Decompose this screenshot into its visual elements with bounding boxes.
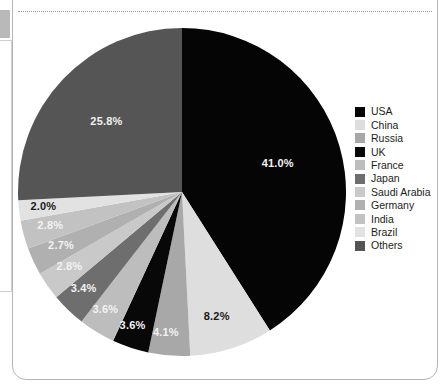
left-gray-block [0, 10, 10, 38]
legend-item[interactable]: Brazil [355, 226, 441, 239]
legend-item[interactable]: France [355, 159, 441, 172]
legend-item-label: USA [371, 106, 393, 117]
pie-slices-group [18, 28, 346, 356]
legend-item[interactable]: Saudi Arabia [355, 185, 441, 198]
legend-swatch-icon [355, 214, 365, 224]
legend-item-label: China [371, 120, 398, 131]
legend-item-label: France [371, 160, 404, 171]
legend-item[interactable]: India [355, 212, 441, 225]
legend-item-label: UK [371, 147, 386, 158]
legend-item[interactable]: China [355, 118, 441, 131]
legend-item[interactable]: UK [355, 145, 441, 158]
pie-chart-svg[interactable] [18, 18, 348, 368]
legend-swatch-icon [355, 107, 365, 117]
legend-item[interactable]: USA [355, 105, 441, 118]
legend-swatch-icon [355, 160, 365, 170]
legend-swatch-icon [355, 227, 365, 237]
legend-item-label: Brazil [371, 227, 397, 238]
legend-swatch-icon [355, 147, 365, 157]
dotted-separator [18, 11, 432, 12]
legend-swatch-icon [355, 241, 365, 251]
legend-swatch-icon [355, 133, 365, 143]
legend-item-label: Japan [371, 173, 400, 184]
legend-item[interactable]: Germany [355, 199, 441, 212]
legend-item-label: Others [371, 240, 403, 251]
legend-item[interactable]: Japan [355, 172, 441, 185]
legend-swatch-icon [355, 174, 365, 184]
legend-item-label: India [371, 214, 394, 225]
legend-swatch-icon [355, 187, 365, 197]
legend-item[interactable]: Russia [355, 132, 441, 145]
legend-item[interactable]: Others [355, 239, 441, 252]
adjacent-panel-outline [0, 40, 12, 292]
pie-slice[interactable] [18, 28, 182, 200]
chart-legend: USAChinaRussiaUKFranceJapanSaudi ArabiaG… [355, 105, 441, 252]
page-root: 41.0%8.2%4.1%3.6%3.6%3.4%2.8%2.7%2.8%2.0… [0, 0, 447, 384]
legend-item-label: Saudi Arabia [371, 187, 431, 198]
legend-swatch-icon [355, 200, 365, 210]
legend-item-label: Russia [371, 133, 403, 144]
legend-item-label: Germany [371, 200, 414, 211]
legend-swatch-icon [355, 120, 365, 130]
pie-chart-region: 41.0%8.2%4.1%3.6%3.6%3.4%2.8%2.7%2.8%2.0… [14, 16, 434, 374]
